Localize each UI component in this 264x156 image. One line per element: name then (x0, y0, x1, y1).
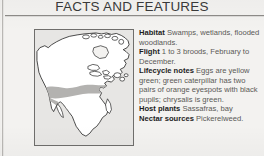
baja-california (57, 104, 64, 118)
header: FACTS AND FEATURES (0, 0, 264, 15)
fact-lifecycle-notes: Lifecycle notes Eggs are yellow green; g… (139, 66, 263, 104)
page-title: FACTS AND FEATURES (0, 0, 264, 14)
fact-habitat-label: Habitat (139, 28, 165, 37)
fact-host-plants-label: Host plants (139, 104, 180, 113)
range-map-panel (34, 29, 134, 146)
facts-list: Habitat Swamps, wetlands, flooded woodla… (139, 28, 263, 123)
north-america-range-map (35, 30, 133, 145)
fact-host-plants: Host plants Sassafras, bay (139, 104, 263, 114)
fact-host-plants-value: Sassafras, bay (182, 104, 232, 113)
fact-nectar-sources-label: Nectar sources (139, 114, 194, 123)
fact-nectar-sources: Nectar sources Pickerelweed. (139, 114, 263, 124)
fact-flight-label: Flight (139, 47, 160, 56)
page-left-rule-highlight (3, 0, 4, 156)
fact-lifecycle-notes-label: Lifecycle notes (139, 66, 194, 75)
facts-and-features-page: FACTS AND FEATURES (0, 0, 264, 156)
fact-flight: Flight 1 to 3 broods, February to Decemb… (139, 47, 263, 66)
header-divider-highlight (5, 16, 264, 17)
fact-habitat: Habitat Swamps, wetlands, flooded woodla… (139, 28, 263, 47)
landmass-outline (37, 33, 129, 136)
fact-nectar-sources-value: Pickerelweed. (196, 114, 243, 123)
